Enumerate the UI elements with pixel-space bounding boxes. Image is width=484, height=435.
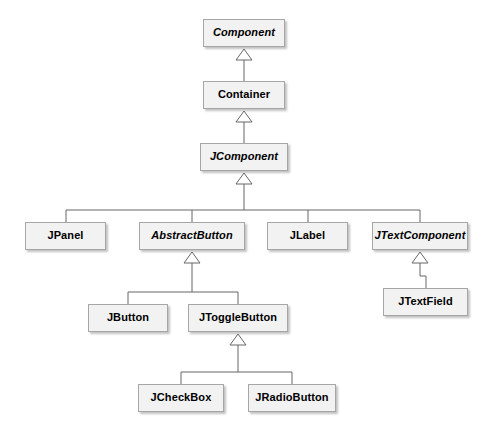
edge-group-jtextcomponent [412, 252, 428, 288]
class-box-jcomponent[interactable]: JComponent [200, 143, 288, 171]
edge-group-jtogglebutton [181, 334, 292, 384]
class-box-jtextfield[interactable]: JTextField [383, 288, 468, 316]
class-box-jpanel[interactable]: JPanel [25, 222, 106, 250]
class-name-label: JButton [107, 312, 149, 324]
class-box-jradiobutton[interactable]: JRadioButton [248, 384, 336, 412]
class-name-label: JLabel [290, 230, 325, 242]
class-name-label: JRadioButton [255, 392, 328, 404]
edge-group-component [236, 49, 252, 81]
class-name-label: JCheckBox [151, 392, 212, 404]
class-box-component[interactable]: Component [203, 19, 285, 47]
class-name-label: Component [213, 27, 275, 39]
class-box-jlabel[interactable]: JLabel [267, 222, 348, 250]
edge-group-jcomponent [66, 173, 420, 222]
class-name-label: Container [218, 89, 270, 101]
class-box-jcheckbox[interactable]: JCheckBox [138, 384, 224, 412]
class-box-container[interactable]: Container [203, 81, 285, 109]
inheritance-edges-layer [0, 0, 484, 435]
class-name-label: JTextComponent [375, 230, 466, 242]
edge-group-container [236, 111, 252, 143]
class-name-label: JComponent [210, 151, 278, 163]
edge-group-abstractbutton [128, 252, 238, 304]
class-name-label: JPanel [47, 230, 83, 242]
class-name-label: JTextField [398, 296, 453, 308]
class-box-jbutton[interactable]: JButton [88, 304, 168, 332]
class-box-jtogglebutton[interactable]: JToggleButton [188, 304, 288, 332]
class-name-label: JToggleButton [199, 312, 277, 324]
class-box-abstractbutton[interactable]: AbstractButton [139, 222, 245, 250]
uml-class-diagram: ComponentContainerJComponentJPanelAbstra… [0, 0, 484, 435]
class-name-label: AbstractButton [151, 230, 232, 242]
class-box-jtextcomponent[interactable]: JTextComponent [372, 222, 468, 250]
